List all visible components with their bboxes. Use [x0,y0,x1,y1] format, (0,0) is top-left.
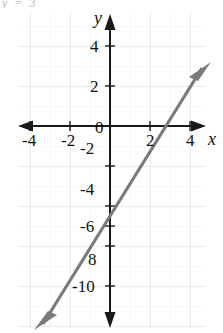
y-tick-label-2: 2 [90,78,99,95]
x-tick-label-neg2: -2 [61,132,75,149]
origin-label: 0 [95,119,104,136]
y-axis-label: y [94,9,102,27]
y-tick-label-neg6: -6 [80,218,94,235]
x-tick-label-4: 4 [186,132,195,149]
y-tick-label-neg8: 8 [88,251,97,268]
x-axis-label: x [208,130,216,148]
x-tick-label-neg4: -4 [22,132,36,149]
coordinate-plane [0,0,223,333]
graph-figure: y = 3 [0,0,223,333]
y-tick-label-neg4: -4 [80,181,94,198]
y-tick-label-neg2: -2 [80,140,94,157]
y-tick-label-neg10: -10 [72,278,95,295]
y-tick-label-4: 4 [90,38,99,55]
grid-major [18,14,206,328]
x-tick-label-2: 2 [146,132,155,149]
